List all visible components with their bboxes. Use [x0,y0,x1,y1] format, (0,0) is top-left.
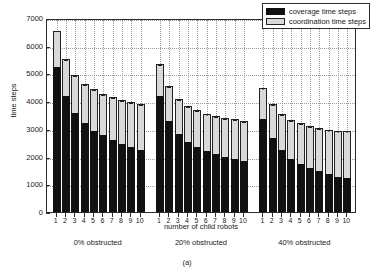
y-tick-label: 1000 [26,181,43,189]
bar-stack [203,114,211,212]
error-bar-cap [271,105,275,106]
y-axis-title: time steps [9,66,18,136]
bar-stack [315,128,323,212]
bar-segment-coverage [62,96,70,212]
y-tick-label: 0 [39,209,43,217]
legend-swatch-coverage [266,8,285,15]
error-bar-cap [233,120,237,121]
y-tick-mark [46,158,50,159]
x-tick-label: 10 [130,217,150,225]
bar-segment-coverage [221,157,229,212]
y-tick-mark [46,102,50,103]
error-bar-cap [177,100,181,101]
y-tick-mark [46,47,50,48]
bar-segment-coverage [343,178,351,212]
y-tick-label: 6000 [26,43,43,51]
bar-stack [156,64,164,212]
error-bar-cap [73,76,77,77]
plot-area [46,19,356,213]
bar-segment-coverage [287,159,295,212]
bar-stack [127,102,135,212]
bar-stack [62,59,70,212]
bar-segment-coverage [193,147,201,212]
bar-segment-coverage [306,168,314,212]
error-bar-cap [299,124,303,125]
bar-stack [212,116,220,212]
error-bar-cap [214,117,218,118]
bar-stack [325,130,333,212]
bar-segment-coverage [278,150,286,212]
bar-segment-coverage [109,140,117,212]
error-bar-cap [195,111,199,112]
error-bar-cap [129,103,133,104]
error-bar-cap [242,122,246,123]
legend-swatch-coordination [266,18,285,25]
bar-segment-coverage [90,131,98,212]
y-tick-mark [46,19,50,20]
legend-label-coverage: coverage time steps [289,7,356,16]
bar-stack [184,106,192,212]
bar-segment-coverage [203,151,211,212]
bar-stack [137,104,145,212]
group-label: 0% obstructed [46,238,149,247]
x-tick-label: 10 [233,217,253,225]
bar-segment-coverage [325,174,333,212]
legend-label-coordination: coordination time steps [289,17,366,26]
error-bar-cap [139,105,143,106]
y-tick-mark [46,213,50,214]
bar-stack [165,86,173,212]
group-label: 20% obstructed [149,238,252,247]
error-bar-cap [101,95,105,96]
error-bar-cap [336,131,340,132]
bar-stack [259,88,267,212]
bar-segment-coverage [231,159,239,212]
y-tick-label: 2000 [26,154,43,162]
figure-container: coverage time steps coordination time st… [0,0,374,278]
y-gridline [47,75,355,76]
y-tick-label: 3000 [26,126,43,134]
bar-stack [297,123,305,212]
bar-stack [221,118,229,212]
bar-stack [81,84,89,212]
group-label: 40% obstructed [253,238,356,247]
y-tick-mark [46,185,50,186]
bar-stack [118,100,126,212]
y-tick-mark [46,130,50,131]
error-bar-cap [92,90,96,91]
bar-segment-coverage [127,147,135,212]
legend-item-coverage: coverage time steps [266,6,366,16]
y-tick-mark [46,74,50,75]
bar-segment-coverage [269,138,277,212]
y-tick-label: 4000 [26,98,43,106]
bar-segment-coverage [165,121,173,212]
bar-segment-coverage [99,135,107,212]
bar-stack [53,31,61,212]
bar-segment-coverage [297,164,305,212]
bar-segment-coverage [81,123,89,212]
bar-segment-coverage [156,96,164,212]
error-bar-cap [308,127,312,128]
error-bar-cap [261,88,265,89]
error-bar-cap [205,114,209,115]
error-bar-cap [223,119,227,120]
bar-stack [109,97,117,212]
error-bar-cap [327,130,331,131]
bar-stack [269,104,277,212]
bar-segment-coverage [53,67,61,212]
error-bar-cap [289,121,293,122]
error-bar-cap [167,87,171,88]
bar-stack [306,126,314,212]
error-bar-cap [83,85,87,86]
y-tick-label: 5000 [26,70,43,78]
y-tick-label: 7000 [26,15,43,23]
figure-caption: (a) [0,258,374,267]
bar-segment-coverage [259,119,267,212]
bar-stack [90,89,98,212]
bar-segment-coverage [240,161,248,212]
chart-legend: coverage time steps coordination time st… [262,3,370,29]
bar-segment-coverage [315,171,323,212]
error-bar-cap [158,65,162,66]
error-bar-cap [186,107,190,108]
legend-item-coordination: coordination time steps [266,16,366,26]
x-tick-label: 10 [336,217,356,225]
